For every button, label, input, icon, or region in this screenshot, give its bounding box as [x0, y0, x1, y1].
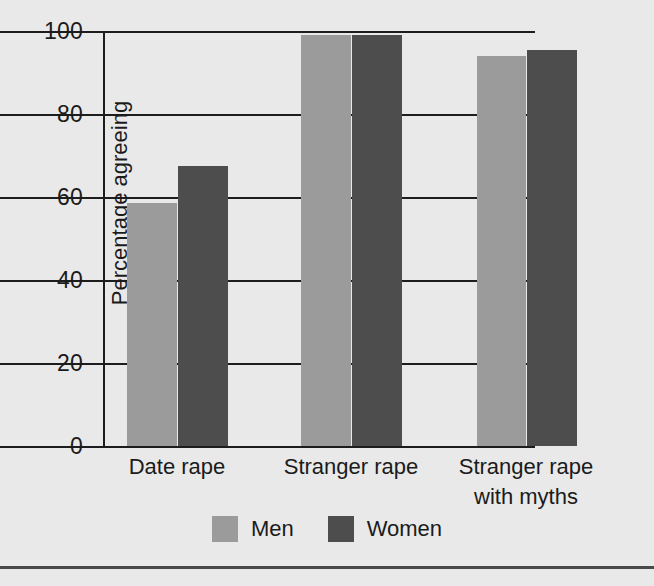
y-tick-80 [88, 114, 103, 116]
category-label-date-rape: Date rape [97, 452, 257, 482]
y-tick-60 [88, 197, 103, 199]
legend-item-men: Men [212, 516, 294, 542]
y-tick-label-80: 80 [8, 101, 83, 128]
bar-men-stranger-rape-myths [477, 56, 526, 446]
y-tick-0 [88, 446, 103, 448]
legend-label-women: Women [367, 516, 442, 542]
y-tick-label-40: 40 [8, 267, 83, 294]
bar-women-date-rape [178, 166, 228, 446]
legend-item-women: Women [328, 516, 442, 542]
bottom-divider [0, 566, 654, 569]
y-tick-label-20: 20 [8, 350, 83, 377]
y-tick-label-0: 0 [8, 433, 83, 460]
bar-chart-figure: 100 80 60 40 20 0 Percentage agreeing Da… [0, 0, 654, 586]
y-tick-40 [88, 280, 103, 282]
y-tick-label-60: 60 [8, 184, 83, 211]
category-label-stranger-rape-myths: Stranger rape with myths [440, 452, 612, 512]
y-tick-100 [88, 31, 103, 33]
legend: Men Women [0, 516, 654, 542]
bar-men-date-rape [127, 203, 177, 446]
bar-women-stranger-rape [352, 35, 402, 446]
y-tick-label-100: 100 [8, 18, 83, 45]
legend-label-men: Men [251, 516, 294, 542]
plot-area [103, 31, 638, 446]
y-tick-20 [88, 363, 103, 365]
category-label-stranger-rape: Stranger rape [266, 452, 436, 482]
bar-men-stranger-rape [301, 35, 351, 446]
legend-swatch-women-icon [328, 516, 354, 542]
legend-swatch-men-icon [212, 516, 238, 542]
bar-women-stranger-rape-myths [527, 50, 577, 446]
